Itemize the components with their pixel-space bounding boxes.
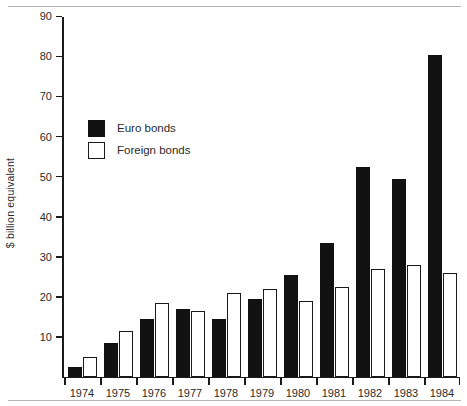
y-axis-tick: 60 [56, 136, 62, 138]
x-axis-tick-label: 1981 [316, 388, 352, 399]
y-axis-title: $ billion equivalent [4, 158, 16, 248]
x-axis-tick [316, 378, 318, 385]
bar-foreign-1983 [407, 265, 421, 377]
y-axis-tick-label: 20 [40, 292, 52, 303]
x-axis-tick [280, 378, 282, 385]
bar-euro-1974 [68, 367, 82, 377]
bar-foreign-1974 [83, 357, 97, 377]
bar-group [316, 17, 352, 377]
x-axis-tick [136, 378, 138, 385]
legend-swatch-foreign-bonds-icon [88, 142, 105, 159]
x-axis-slot: 1976 [136, 378, 172, 404]
bar-euro-1978 [212, 319, 226, 377]
x-axis-tick [424, 378, 426, 385]
y-axis-tick-label: 30 [40, 251, 52, 262]
y-axis-tick: 70 [56, 96, 62, 98]
bar-euro-1977 [176, 309, 190, 377]
x-axis-tick-label: 1982 [352, 388, 388, 399]
x-axis-tick-label: 1974 [64, 388, 100, 399]
x-axis-slot: 1979 [244, 378, 280, 404]
bar-euro-1979 [248, 299, 262, 377]
bar-group [64, 17, 100, 377]
bar-group [208, 17, 244, 377]
x-axis-slot: 1974 [64, 378, 100, 404]
x-axis-slot: 1981 [316, 378, 352, 404]
legend-label-euro-bonds: Euro bonds [117, 122, 176, 134]
y-axis-tick: 40 [56, 216, 62, 218]
chart-legend: Euro bonds Foreign bonds [88, 117, 191, 161]
y-axis-tick-label: 70 [40, 91, 52, 102]
x-axis-tick-label: 1979 [244, 388, 280, 399]
legend-swatch-euro-bonds-icon [88, 120, 105, 137]
x-axis-tick-label: 1977 [172, 388, 208, 399]
x-axis-tick [208, 378, 210, 385]
bar-group [100, 17, 136, 377]
bar-group [244, 17, 280, 377]
y-axis-tick-label: 50 [40, 171, 52, 182]
x-axis-tick-label: 1978 [208, 388, 244, 399]
bar-foreign-1984 [443, 273, 457, 377]
x-axis-slot: 1978 [208, 378, 244, 404]
x-axis-slot: 1977 [172, 378, 208, 404]
y-axis-tick: 10 [56, 336, 62, 338]
y-axis-tick: 90 [56, 16, 62, 18]
x-axis-tick [352, 378, 354, 385]
bar-group [352, 17, 388, 377]
bar-foreign-1975 [119, 331, 133, 377]
x-axis-slot: 1984 [424, 378, 460, 404]
x-axis-slot: 1982 [352, 378, 388, 404]
bar-euro-1982 [356, 167, 370, 377]
x-axis-tick-label: 1984 [424, 388, 460, 399]
bar-foreign-1976 [155, 303, 169, 377]
x-axis-tick-label: 1976 [136, 388, 172, 399]
x-axis-tick [244, 378, 246, 385]
bar-euro-1975 [104, 343, 118, 377]
bar-foreign-1979 [263, 289, 277, 377]
x-axis-tick [100, 378, 102, 385]
x-axis-slot: 1980 [280, 378, 316, 404]
legend-item-euro-bonds: Euro bonds [88, 117, 191, 139]
bar-group [424, 17, 460, 377]
plot-area: 102030405060708090 197419751976197719781… [62, 17, 460, 378]
bar-group [280, 17, 316, 377]
y-axis-tick: 30 [56, 256, 62, 258]
legend-item-foreign-bonds: Foreign bonds [88, 139, 191, 161]
bar-foreign-1982 [371, 269, 385, 377]
bar-group [388, 17, 424, 377]
y-axis-tick-label: 90 [40, 11, 52, 22]
y-axis-tick-label: 40 [40, 211, 52, 222]
top-divider-rule [8, 6, 461, 7]
x-axis-tick-label: 1975 [100, 388, 136, 399]
bar-chart-figure: $ billion equivalent 102030405060708090 … [0, 0, 467, 406]
x-axis-slot: 1983 [388, 378, 424, 404]
bar-euro-1984 [428, 55, 442, 377]
legend-label-foreign-bonds: Foreign bonds [117, 144, 191, 156]
bar-group [136, 17, 172, 377]
y-axis-tick-label: 10 [40, 332, 52, 343]
x-axis-tick-label: 1983 [388, 388, 424, 399]
x-axis-slot: 1975 [100, 378, 136, 404]
y-axis-tick: 50 [56, 176, 62, 178]
bar-euro-1981 [320, 243, 334, 377]
bar-euro-1980 [284, 275, 298, 377]
bar-euro-1976 [140, 319, 154, 377]
bar-foreign-1981 [335, 287, 349, 377]
bar-foreign-1978 [227, 293, 241, 377]
bar-groups [64, 17, 460, 377]
bar-foreign-1980 [299, 301, 313, 377]
bar-group [172, 17, 208, 377]
y-axis-tick-label: 60 [40, 131, 52, 142]
bar-foreign-1977 [191, 311, 205, 377]
x-axis-ticks: 1974197519761977197819791980198119821983… [64, 378, 460, 404]
bar-euro-1983 [392, 179, 406, 377]
y-axis-tick: 20 [56, 296, 62, 298]
y-axis-tick: 80 [56, 56, 62, 58]
x-axis-tick [388, 378, 390, 385]
x-axis-tick [64, 378, 66, 385]
x-axis-tick [172, 378, 174, 385]
x-axis-tick [459, 378, 461, 385]
x-axis-tick-label: 1980 [280, 388, 316, 399]
y-axis-tick-label: 80 [40, 51, 52, 62]
